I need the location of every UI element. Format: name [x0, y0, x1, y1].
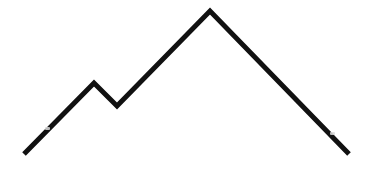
mountain-polyline: [24, 11, 349, 154]
mountain-line-drawing: [0, 0, 373, 173]
compression-artifact: [45, 127, 50, 130]
mountain-outline-icon: [0, 0, 373, 173]
compression-artifact: [330, 132, 335, 135]
